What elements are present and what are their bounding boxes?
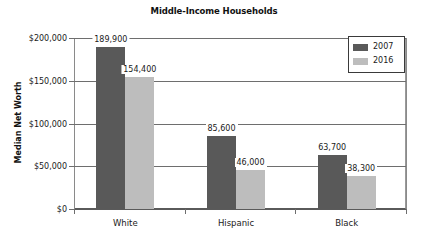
x-category-label-hispanic: Hispanic (218, 218, 254, 228)
legend-item: 2016 (353, 54, 400, 68)
y-tick-label: $150,000 (29, 76, 67, 85)
y-tick-label: $200,000 (29, 34, 67, 43)
x-axis-tick (295, 209, 296, 214)
legend: 2007 2016 (348, 36, 405, 73)
y-axis-title-text: Median Net Worth (15, 81, 24, 163)
x-category-label-white: White (113, 218, 138, 228)
data-label: 46,000 (235, 158, 267, 167)
legend-swatch-2016 (353, 58, 368, 65)
legend-item: 2007 (353, 40, 400, 54)
y-tick-label: $0 (57, 205, 67, 214)
x-category-label-black: Black (335, 218, 358, 228)
y-tick-label: $100,000 (29, 119, 67, 128)
bar-hispanic-2007 (207, 136, 236, 209)
x-axis-line (74, 209, 407, 210)
bar-black-2016 (347, 176, 376, 209)
data-label: 189,900 (92, 35, 129, 44)
data-label: 85,600 (206, 124, 238, 133)
legend-label-2007: 2007 (373, 43, 393, 51)
legend-swatch-2007 (353, 44, 368, 51)
data-label: 63,700 (316, 143, 348, 152)
bar-black-2007 (318, 155, 347, 209)
x-axis-tick (74, 209, 75, 214)
x-axis-tick (185, 209, 186, 214)
bar-chart: Middle-Income Households Median Net Wort… (0, 0, 428, 244)
y-tick-label: $50,000 (34, 162, 67, 171)
bar-hispanic-2016 (236, 170, 265, 209)
data-label: 38,300 (345, 164, 377, 173)
x-axis-tick (406, 209, 407, 214)
bar-white-2016 (125, 77, 154, 209)
data-label: 154,400 (121, 65, 158, 74)
legend-label-2016: 2016 (373, 57, 393, 65)
chart-title: Middle-Income Households (0, 6, 428, 16)
y-axis-title: Median Net Worth (12, 62, 26, 182)
plot-right-border (406, 38, 407, 209)
